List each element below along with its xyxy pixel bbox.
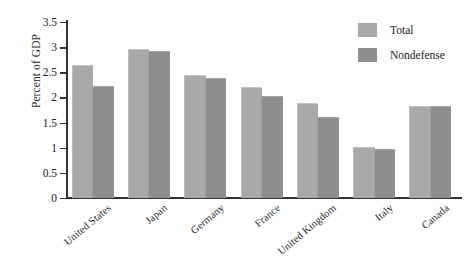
y-axis-tick-label: 1.5 bbox=[43, 117, 57, 129]
y-axis-tick-mark bbox=[60, 97, 66, 98]
legend-item: Total bbox=[358, 19, 445, 40]
y-axis-tick-label: 1 bbox=[51, 142, 57, 154]
y-axis-label: Percent of GDP bbox=[28, 0, 44, 170]
bar-group bbox=[241, 22, 282, 198]
legend-swatch bbox=[358, 23, 377, 37]
category-label-text: United States bbox=[62, 202, 113, 247]
y-axis-tick-label: 2.5 bbox=[43, 66, 57, 78]
category-label-text: Canada bbox=[419, 202, 451, 231]
bar-nondefense bbox=[430, 106, 452, 198]
bar-total bbox=[72, 65, 94, 198]
bar-total bbox=[184, 75, 206, 198]
legend-label: Total bbox=[390, 24, 413, 36]
legend-item: Nondefense bbox=[358, 44, 445, 65]
bar-group bbox=[184, 22, 225, 198]
category-label-text: United Kingdom bbox=[276, 202, 338, 257]
bar-total bbox=[409, 106, 431, 198]
legend-swatch bbox=[358, 48, 377, 62]
y-axis-tick-mark bbox=[60, 47, 66, 48]
y-axis-tick-label: 0.5 bbox=[43, 167, 57, 179]
legend-label: Nondefense bbox=[390, 49, 445, 61]
bar-nondefense bbox=[261, 96, 283, 198]
y-axis-tick-mark bbox=[60, 173, 66, 174]
bar-group bbox=[297, 22, 338, 198]
bar-total bbox=[297, 103, 319, 198]
chart-legend: TotalNondefense bbox=[358, 19, 445, 69]
y-axis-tick-label: 3 bbox=[51, 41, 57, 53]
category-label-text: France bbox=[253, 202, 282, 229]
y-axis-tick-mark bbox=[60, 72, 66, 73]
y-axis-tick-mark bbox=[60, 148, 66, 149]
category-label-text: Germany bbox=[188, 202, 226, 236]
bar-nondefense bbox=[92, 86, 114, 198]
bar-nondefense bbox=[317, 117, 339, 198]
bar-chart-figure: Percent of GDP 00.511.522.533.5 United S… bbox=[0, 0, 476, 267]
y-axis-tick-label: 0 bbox=[51, 192, 57, 204]
category-label-text: Japan bbox=[144, 202, 170, 226]
bar-nondefense bbox=[205, 78, 227, 198]
bar-group bbox=[72, 22, 113, 198]
y-axis-tick-label: 2 bbox=[51, 91, 57, 103]
y-axis-tick-label: 3.5 bbox=[43, 16, 57, 28]
y-axis-tick-mark bbox=[60, 22, 66, 23]
y-axis-tick-mark bbox=[60, 123, 66, 124]
category-label-text: Italy bbox=[372, 202, 394, 223]
y-axis-tick-mark bbox=[60, 198, 66, 199]
